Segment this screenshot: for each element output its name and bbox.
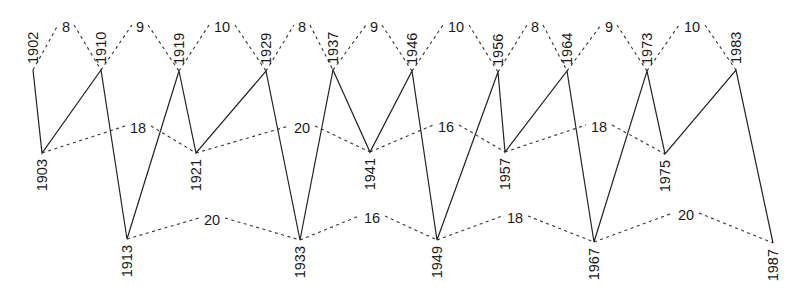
year-label-top: 1973 (639, 33, 655, 65)
year-label-top: 1946 (404, 33, 420, 65)
year-label-middle: 1975 (657, 160, 673, 192)
interval-connector-middle (196, 126, 289, 153)
interval-label-middle: 18 (130, 120, 146, 136)
year-label-top: 1929 (258, 33, 274, 65)
interval-label-top: 10 (214, 19, 230, 35)
interval-labels: 8910891089101820161820161820 (62, 19, 700, 228)
interval-label-top: 8 (62, 19, 70, 35)
interval-connector-bottom (437, 216, 502, 240)
year-label-middle: 1903 (34, 159, 50, 191)
year-label-top: 1983 (728, 32, 744, 64)
interval-connector-bottom (300, 216, 359, 240)
interval-connector-bottom (225, 218, 300, 240)
interval-label-top: 8 (531, 19, 539, 35)
interval-label-top: 9 (136, 19, 144, 35)
interval-label-top: 9 (605, 19, 613, 35)
year-label-top: 1964 (559, 33, 575, 65)
year-label-bottom: 1933 (292, 246, 308, 278)
year-label-top: 1956 (490, 34, 506, 66)
interval-label-middle: 16 (438, 119, 454, 135)
interval-label-top: 8 (298, 19, 306, 35)
year-label-middle: 1941 (362, 158, 378, 190)
year-labels: 1902190319101913191919211929193319371941… (25, 32, 781, 282)
interval-label-middle: 20 (294, 120, 310, 136)
interval-label-bottom: 20 (678, 207, 694, 223)
year-label-top: 1919 (171, 33, 187, 65)
year-cycle-diagram: 8910891089101820161820161820 19021903191… (0, 0, 796, 299)
year-label-bottom: 1913 (119, 245, 135, 277)
year-label-bottom: 1967 (586, 248, 602, 280)
interval-connector-middle (612, 125, 665, 154)
year-label-bottom: 1949 (429, 246, 445, 278)
year-label-middle: 1921 (188, 159, 204, 191)
interval-connector-bottom (528, 216, 594, 242)
interval-label-top: 9 (370, 19, 378, 35)
interval-label-bottom: 20 (204, 212, 220, 228)
interval-connector-bottom (594, 213, 673, 242)
interval-label-bottom: 16 (364, 210, 380, 226)
interval-label-top: 10 (448, 19, 464, 35)
year-label-middle: 1957 (497, 158, 513, 190)
year-label-top: 1937 (325, 32, 341, 64)
interval-connector-middle (459, 125, 505, 152)
year-label-bottom: 1987 (765, 249, 781, 281)
year-label-top: 1910 (93, 32, 109, 64)
interval-label-middle: 18 (591, 119, 607, 135)
interval-connector-bottom (699, 213, 773, 243)
interval-label-top: 10 (684, 19, 700, 35)
interval-connector-middle (505, 125, 586, 152)
interval-connector-middle (315, 126, 370, 152)
interval-connector-bottom (127, 218, 199, 239)
year-label-top: 1902 (25, 32, 41, 64)
interval-connector-bottom (385, 216, 437, 240)
diagram-canvas: 8910891089101820161820161820 19021903191… (0, 0, 796, 299)
interval-label-bottom: 18 (507, 210, 523, 226)
